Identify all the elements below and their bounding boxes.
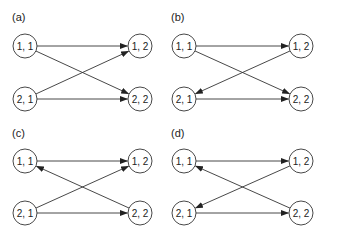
panel-label: (c) [12, 127, 25, 139]
node-11: 1, 1 [172, 149, 196, 173]
node-21: 2, 1 [172, 87, 196, 111]
panel-label: (d) [171, 127, 184, 139]
panel-c: (c)1, 12, 11, 22, 2 [12, 127, 152, 225]
state-transition-diagram: (a)1, 12, 11, 22, 2(b)1, 12, 11, 22, 2(c… [0, 0, 337, 241]
node-11: 1, 1 [13, 34, 37, 58]
node-label: 1, 1 [17, 156, 34, 167]
panel-label: (a) [12, 11, 25, 23]
node-12: 1, 2 [128, 34, 152, 58]
node-22: 2, 2 [128, 201, 152, 225]
node-label: 2, 2 [132, 94, 149, 105]
node-label: 1, 1 [176, 41, 193, 52]
panel-b: (b)1, 12, 11, 22, 2 [171, 11, 313, 111]
node-21: 2, 1 [13, 87, 37, 111]
node-label: 2, 2 [293, 208, 310, 219]
node-label: 1, 2 [293, 41, 310, 52]
node-22: 2, 2 [289, 201, 313, 225]
node-label: 2, 1 [17, 208, 34, 219]
node-label: 2, 1 [17, 94, 34, 105]
node-label: 1, 2 [132, 156, 149, 167]
node-22: 2, 2 [289, 87, 313, 111]
node-21: 2, 1 [13, 201, 37, 225]
node-label: 1, 2 [132, 41, 149, 52]
panel-a: (a)1, 12, 11, 22, 2 [12, 11, 152, 111]
node-22: 2, 2 [128, 87, 152, 111]
node-label: 1, 1 [176, 156, 193, 167]
node-label: 2, 1 [176, 208, 193, 219]
node-11: 1, 1 [172, 34, 196, 58]
node-label: 2, 2 [132, 208, 149, 219]
node-label: 2, 1 [176, 94, 193, 105]
panel-d: (d)1, 12, 11, 22, 2 [171, 127, 313, 225]
node-label: 1, 2 [293, 156, 310, 167]
node-12: 1, 2 [289, 34, 313, 58]
node-11: 1, 1 [13, 149, 37, 173]
node-21: 2, 1 [172, 201, 196, 225]
node-12: 1, 2 [128, 149, 152, 173]
panel-label: (b) [171, 11, 184, 23]
node-label: 2, 2 [293, 94, 310, 105]
node-label: 1, 1 [17, 41, 34, 52]
node-12: 1, 2 [289, 149, 313, 173]
